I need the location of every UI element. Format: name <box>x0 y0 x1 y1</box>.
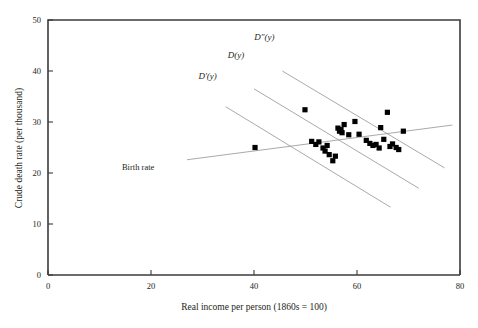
data-point-marker <box>385 110 390 115</box>
curve-label-dy: D(y) <box>227 50 245 60</box>
data-point-marker <box>339 130 344 135</box>
y-tick-label: 40 <box>33 66 42 76</box>
data-point-marker <box>381 137 386 142</box>
data-point-marker <box>316 139 321 144</box>
y-tick-label: 0 <box>37 270 41 280</box>
trend-lines <box>187 71 452 207</box>
y-tick-label: 20 <box>33 168 42 178</box>
data-point-marker <box>302 107 307 112</box>
data-point-marker <box>396 147 401 152</box>
x-tick-label: 20 <box>147 281 156 291</box>
data-point-marker <box>252 145 257 150</box>
data-point-marker <box>401 129 406 134</box>
x-tick-label: 80 <box>456 281 465 291</box>
data-points <box>252 107 406 163</box>
trend-line-dy <box>282 71 444 168</box>
curve-label-dy: D′(y) <box>197 71 216 81</box>
x-tick-label: 40 <box>250 281 259 291</box>
curve-label-dy: D″(y) <box>253 32 274 42</box>
data-point-marker <box>377 145 382 150</box>
data-point-marker <box>330 158 335 163</box>
scatter-plot: 02040608001020304050 D″(y)D(y)D′(y)Birth… <box>0 0 478 328</box>
data-point-marker <box>327 152 332 157</box>
x-axis-label: Real income per person (1860s = 100) <box>181 302 327 313</box>
chart-figure: 02040608001020304050 D″(y)D(y)D′(y)Birth… <box>0 0 478 328</box>
data-point-marker <box>352 119 357 124</box>
x-tick-label: 0 <box>46 281 50 291</box>
data-point-marker <box>346 132 351 137</box>
y-tick-label: 50 <box>33 15 42 25</box>
data-point-marker <box>378 125 383 130</box>
axis-ticks: 02040608001020304050 <box>33 15 465 291</box>
y-tick-label: 30 <box>33 117 42 127</box>
y-axis-label: Crude death rate (per thousand) <box>14 88 25 208</box>
x-tick-label: 60 <box>353 281 362 291</box>
y-tick-label: 10 <box>33 219 42 229</box>
curve-label-birthrate: Birth rate <box>122 162 155 172</box>
data-point-marker <box>356 132 361 137</box>
data-point-marker <box>333 154 338 159</box>
data-point-marker <box>342 122 347 127</box>
data-point-marker <box>325 143 330 148</box>
